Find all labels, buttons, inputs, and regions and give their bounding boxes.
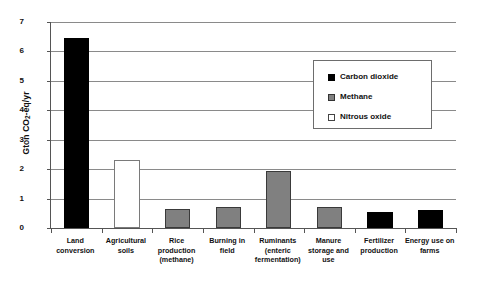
x-axis-category-label-line: Agricultural bbox=[101, 236, 152, 246]
x-axis-category-label-line: farms bbox=[404, 246, 455, 256]
x-axis-category-label-line: Land bbox=[50, 236, 101, 246]
bar bbox=[165, 209, 190, 228]
legend-item-nitrous-oxide: Nitrous oxide bbox=[328, 107, 431, 127]
bar bbox=[114, 160, 139, 228]
y-axis-tick-label: 7 bbox=[0, 18, 24, 26]
x-axis-category-label-line: Ruminants bbox=[253, 236, 304, 246]
bar bbox=[418, 210, 443, 228]
x-axis-category-label: Riceproduction(methane) bbox=[151, 236, 202, 265]
y-axis-title-subscript: 2 bbox=[24, 115, 31, 119]
x-axis-category-label-line: field bbox=[202, 246, 253, 256]
x-axis-category-label-line: use bbox=[303, 255, 354, 265]
x-axis-category-label-line: conversion bbox=[50, 246, 101, 256]
legend-swatch-carbon-dioxide bbox=[328, 74, 335, 81]
legend-swatch-methane bbox=[328, 94, 335, 101]
y-axis-tick bbox=[47, 81, 51, 82]
bar bbox=[266, 171, 291, 228]
x-axis-category-label-line: production bbox=[354, 246, 405, 256]
x-axis-category-label-line: fermentation) bbox=[253, 255, 304, 265]
y-axis-tick bbox=[47, 140, 51, 141]
gridline bbox=[51, 169, 456, 170]
x-axis-category-label-line: Manure bbox=[303, 236, 354, 246]
x-axis-category-label: Ruminants(entericfermentation) bbox=[253, 236, 304, 265]
x-axis-category-label: Agriculturalsoils bbox=[101, 236, 152, 255]
gridline bbox=[51, 22, 456, 23]
x-axis-category-label-line: Energy use on bbox=[404, 236, 455, 246]
bar bbox=[367, 212, 392, 228]
x-axis-baseline bbox=[51, 228, 456, 229]
x-axis-category-label-line: soils bbox=[101, 246, 152, 256]
gridline bbox=[51, 51, 456, 52]
x-axis-category-label-line: Rice bbox=[151, 236, 202, 246]
x-axis-category-labels: LandconversionAgriculturalsoilsRiceprodu… bbox=[50, 236, 455, 280]
legend: Carbon dioxide Methane Nitrous oxide bbox=[313, 60, 432, 129]
y-axis-tick-label: 3 bbox=[0, 136, 24, 144]
legend-item-carbon-dioxide: Carbon dioxide bbox=[328, 67, 431, 87]
x-axis-category-label: Fertilizerproduction bbox=[354, 236, 405, 255]
x-axis-category-label: Manurestorage anduse bbox=[303, 236, 354, 265]
x-axis-category-label: Burning infield bbox=[202, 236, 253, 255]
legend-swatch-nitrous-oxide bbox=[328, 114, 335, 121]
bar bbox=[317, 207, 342, 228]
legend-label-nitrous-oxide: Nitrous oxide bbox=[340, 113, 391, 121]
legend-label-carbon-dioxide: Carbon dioxide bbox=[340, 73, 398, 81]
x-axis-category-label: Landconversion bbox=[50, 236, 101, 255]
gridline bbox=[51, 199, 456, 200]
y-axis-tick bbox=[47, 51, 51, 52]
bar bbox=[216, 207, 241, 228]
x-axis-category-label-line: (enteric bbox=[253, 246, 304, 256]
y-axis-tick bbox=[47, 199, 51, 200]
y-axis-tick bbox=[47, 169, 51, 170]
legend-label-methane: Methane bbox=[340, 93, 372, 101]
y-axis-tick bbox=[47, 110, 51, 111]
bar-chart: Gton CO2-eq/yr 76543210 Carbon dioxide M… bbox=[0, 0, 479, 282]
y-axis-tick-label: 5 bbox=[0, 77, 24, 85]
x-axis-category-label-line: production bbox=[151, 246, 202, 256]
gridline bbox=[51, 140, 456, 141]
x-axis-tick bbox=[456, 228, 457, 233]
y-axis-tick bbox=[47, 22, 51, 23]
y-axis-tick-label: 6 bbox=[0, 47, 24, 55]
x-axis-category-label-line: Fertilizer bbox=[354, 236, 405, 246]
plot-area: Carbon dioxide Methane Nitrous oxide bbox=[50, 22, 455, 228]
legend-item-methane: Methane bbox=[328, 87, 431, 107]
y-axis-tick-label: 1 bbox=[0, 195, 24, 203]
y-axis-tick-label: 2 bbox=[0, 165, 24, 173]
x-axis-category-label-line: storage and bbox=[303, 246, 354, 256]
y-axis-tick-label: 4 bbox=[0, 106, 24, 114]
x-axis-category-label-line: (methane) bbox=[151, 255, 202, 265]
y-axis-tick-label: 0 bbox=[0, 224, 24, 232]
x-axis-category-label: Energy use onfarms bbox=[404, 236, 455, 255]
bar bbox=[64, 38, 89, 228]
x-axis-category-label-line: Burning in bbox=[202, 236, 253, 246]
